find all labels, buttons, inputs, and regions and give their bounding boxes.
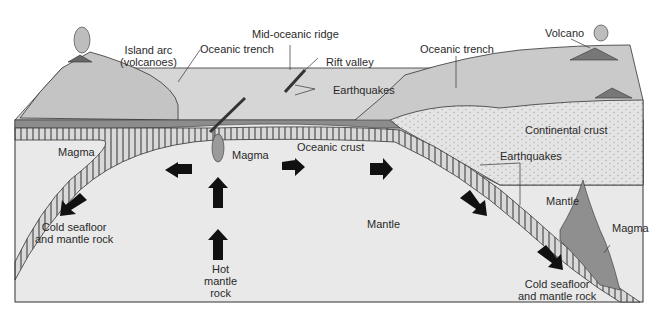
label-hot-line2: mantle (204, 275, 237, 287)
label-oceanic-trench-right: Oceanic trench (420, 43, 494, 55)
label-mantle-right: Mantle (546, 195, 579, 207)
label-oceanic-trench-left: Oceanic trench (200, 43, 274, 55)
label-cold-seafloor-left-line2: and mantle rock (35, 233, 113, 245)
label-cold-seafloor-left: Cold seafloor and mantle rock (35, 221, 113, 245)
label-rift-valley: Rift valley (326, 56, 374, 68)
label-continental-crust: Continental crust (525, 124, 608, 136)
ridge-magma-plume (212, 134, 224, 162)
label-earthquakes-right: Earthquakes (500, 150, 562, 162)
label-earthquakes-ridge: Earthquakes (333, 84, 395, 96)
label-island-arc-line2: (volcanoes) (120, 56, 177, 68)
label-cold-seafloor-right: Cold seafloor and mantle rock (518, 278, 596, 302)
plate-tectonics-diagram (0, 0, 667, 319)
label-hot-line3: rock (204, 287, 237, 299)
label-magma-right: Magma (612, 222, 649, 234)
label-cold-seafloor-right-line1: Cold seafloor (518, 278, 596, 290)
label-cold-seafloor-right-line2: and mantle rock (518, 290, 596, 302)
label-mid-oceanic-ridge: Mid-oceanic ridge (252, 28, 339, 40)
ash-cloud-left (74, 27, 90, 53)
label-oceanic-crust: Oceanic crust (297, 141, 364, 153)
label-volcano: Volcano (545, 27, 584, 39)
label-magma-center: Magma (232, 149, 269, 161)
ash-cloud-right (594, 25, 608, 41)
label-hot-line1: Hot (204, 263, 237, 275)
label-mantle-center: Mantle (367, 218, 400, 230)
label-magma-left: Magma (58, 146, 95, 158)
label-hot-mantle-rock: Hot mantle rock (204, 263, 237, 299)
label-island-arc: Island arc (volcanoes) (120, 44, 177, 68)
label-island-arc-line1: Island arc (120, 44, 177, 56)
label-cold-seafloor-left-line1: Cold seafloor (35, 221, 113, 233)
